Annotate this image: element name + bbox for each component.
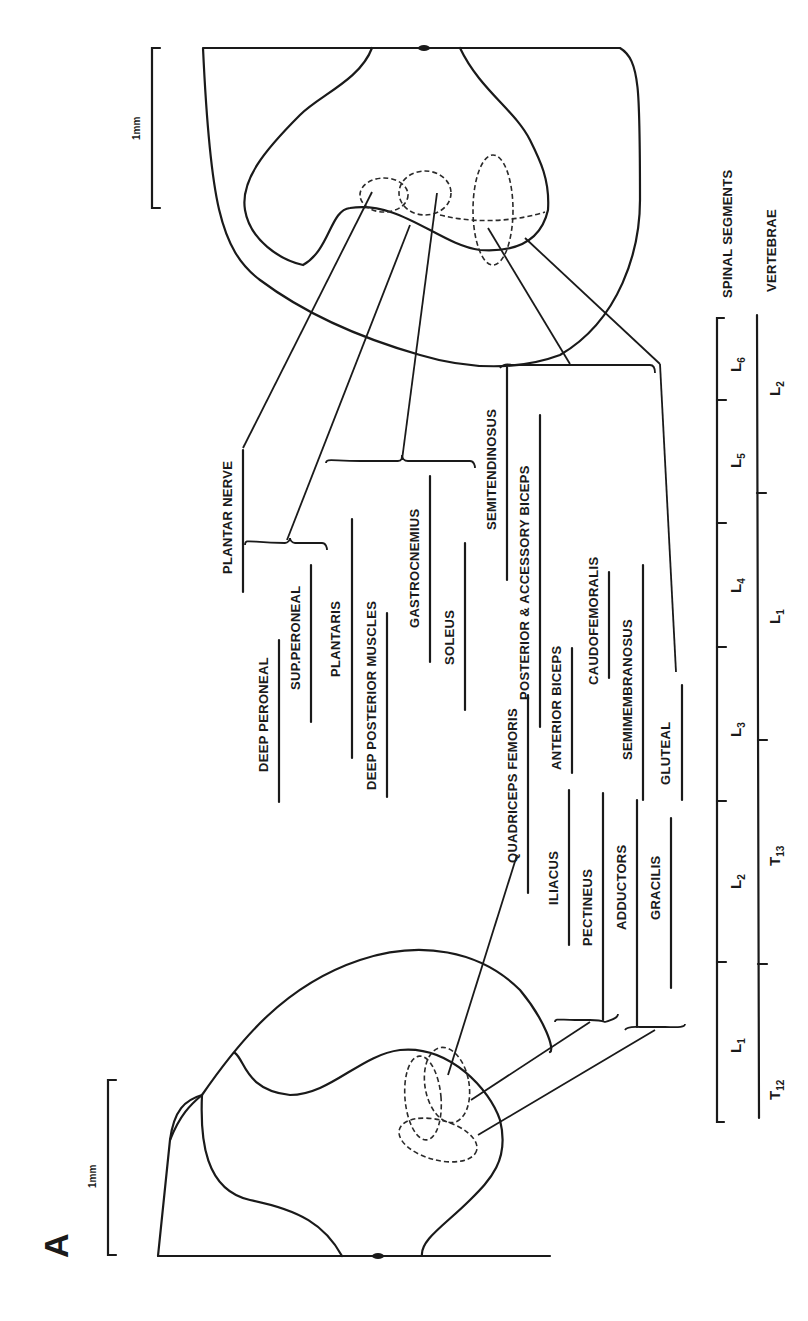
vertebra-label-t12: T12 xyxy=(766,1079,786,1100)
label-iliacus: ILIACUS xyxy=(546,851,561,905)
label-posterior-accessory-biceps: POSTERIOR & ACCESSORY BICEPS xyxy=(517,465,532,700)
rostral-section-outline xyxy=(203,48,640,366)
label-anterior-biceps: ANTERIOR BICEPS xyxy=(549,646,564,770)
label-adductors: ADDUCTORS xyxy=(614,844,629,930)
label-quadriceps-femoris: QUADRICEPS FEMORIS xyxy=(505,708,520,863)
label-plantaris: PLANTARIS xyxy=(328,601,343,677)
rostral-scale-label: 1mm xyxy=(131,117,142,140)
segment-label-l2: L2 xyxy=(727,874,747,889)
segment-label-l5: L5 xyxy=(727,453,747,468)
label-pectineus: PECTINEUS xyxy=(580,869,595,946)
vertebra-label-t13: T13 xyxy=(766,845,786,866)
label-caudofemoralis: CAUDOFEMORALIS xyxy=(586,557,601,685)
spinal-segments-title: SPINAL SEGMENTS xyxy=(720,169,735,298)
label-soleus: SOLEUS xyxy=(442,610,457,665)
label-deep-peroneal: DEEP PERONEAL xyxy=(256,657,271,772)
segment-label-l6: L6 xyxy=(727,357,747,372)
label-semimembranosus: SEMIMEMBRANOSUS xyxy=(620,619,635,760)
rostral-grey-matter-outline xyxy=(244,48,548,265)
label-gluteal: GLUTEAL xyxy=(658,722,673,785)
rostral-scale-bar xyxy=(152,48,160,208)
spinal-motor-pool-diagram: A 1mm 1mm xyxy=(0,0,808,1321)
vertebra-label-l1: L1 xyxy=(766,609,786,624)
segment-label-l3: L3 xyxy=(727,722,747,737)
muscle-bars: PLANTARIS DEEP POSTERIOR MUSCLES GASTROC… xyxy=(328,367,682,1027)
caudal-grey-matter-outline xyxy=(235,1050,503,1256)
label-sup-peroneal: SUP.PERONEAL xyxy=(288,586,303,691)
label-plantar-nerve: PLANTAR NERVE xyxy=(220,461,235,574)
spinal-segments-axis: SPINAL SEGMENTS L6 L5 L4 L3 L2 L1 xyxy=(717,169,747,1122)
caudal-scale-label: 1mm xyxy=(87,1165,98,1188)
label-gracilis: GRACILIS xyxy=(648,855,663,920)
nerve-bars: PLANTAR NERVE DEEP PERONEAL SUP.PERONEAL xyxy=(220,450,311,802)
vertebrae-title: VERTEBRAE xyxy=(764,209,779,292)
label-deep-posterior-muscles: DEEP POSTERIOR MUSCLES xyxy=(364,601,379,790)
caudal-scale-bar xyxy=(108,1080,116,1255)
segment-label-l4: L4 xyxy=(727,578,747,593)
rostral-central-canal xyxy=(418,45,430,51)
label-gastrocnemius: GASTROCNEMIUS xyxy=(407,509,422,628)
caudal-central-canal xyxy=(372,1253,384,1259)
vertebrae-axis: VERTEBRAE L2 L1 T13 T12 xyxy=(757,209,786,1118)
label-semitendinosus: SEMITENDINOSUS xyxy=(484,409,499,530)
caudal-spinal-cord-section: 1mm xyxy=(87,950,551,1259)
vertebra-label-l2: L2 xyxy=(766,381,786,396)
panel-label: A xyxy=(37,1233,75,1258)
segment-label-l1: L1 xyxy=(727,1038,747,1053)
rostral-spinal-cord-section: 1mm xyxy=(131,45,640,366)
